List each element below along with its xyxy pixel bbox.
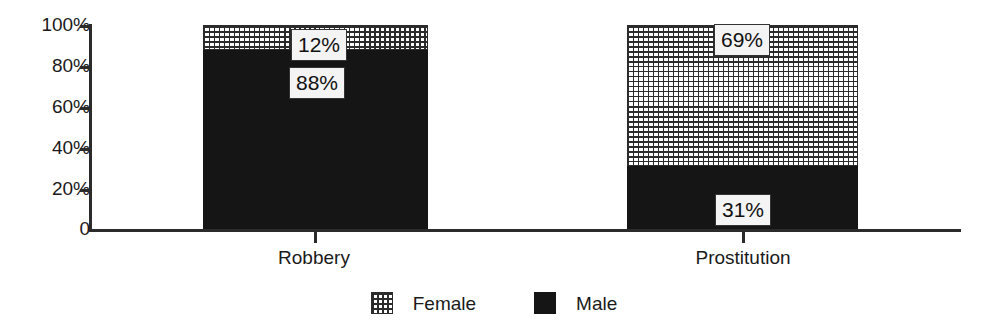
y-axis-tick-label-100: 100% — [16, 15, 90, 34]
legend-item-female: Female — [371, 292, 476, 314]
data-label-prostitution-female: 69% — [714, 24, 770, 56]
x-axis-line — [89, 229, 961, 232]
legend-label-female: Female — [413, 294, 476, 313]
y-axis-tick-label-0: 0 — [16, 219, 90, 238]
y-tick-mark-40 — [80, 148, 90, 151]
x-axis-label-robbery: Robbery — [234, 247, 394, 269]
y-tick-mark-60 — [80, 107, 90, 110]
y-axis-tick-label-20: 20% — [16, 179, 90, 198]
data-label-robbery-female: 12% — [291, 29, 347, 61]
data-label-robbery-male: 88% — [289, 67, 345, 99]
legend-item-male: Male — [534, 292, 617, 314]
y-axis-tick-label-40: 40% — [16, 138, 90, 157]
legend-label-male: Male — [576, 294, 617, 313]
y-axis-tick-label-80: 80% — [16, 56, 90, 75]
black-swatch-icon — [534, 292, 556, 314]
crosshatch-swatch-icon — [371, 292, 393, 314]
y-axis-tick-label-60: 60% — [16, 97, 90, 116]
y-tick-mark-20 — [80, 189, 90, 192]
data-label-prostitution-male: 31% — [715, 194, 771, 226]
stacked-bar-chart: 100% 80% 60% 40% 20% 0 12% 88% 69% 31% R… — [0, 0, 988, 334]
x-axis-label-prostitution: Prostitution — [663, 247, 823, 269]
y-tick-mark-100 — [80, 25, 90, 28]
x-tick-mark-prostitution — [742, 232, 745, 243]
x-tick-mark-robbery — [314, 232, 317, 243]
y-tick-mark-80 — [80, 66, 90, 69]
chart-legend: Female Male — [0, 292, 988, 314]
